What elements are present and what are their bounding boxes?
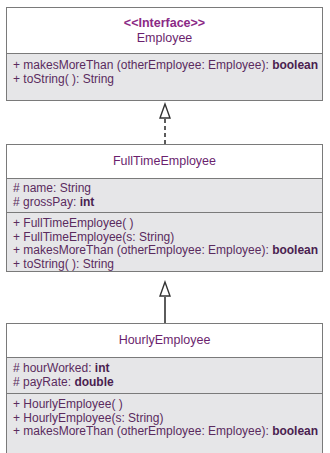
generalization-arrow-icon [160,282,170,323]
realization-arrow-icon [160,104,170,144]
